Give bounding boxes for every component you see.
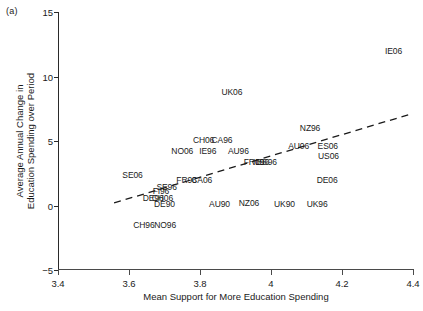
y-tick-label: −5 xyxy=(42,265,53,276)
data-point-label: AU96 xyxy=(228,146,249,156)
data-point-label: SE06 xyxy=(122,170,142,180)
x-tick-mark xyxy=(129,270,130,275)
x-tick-mark xyxy=(271,270,272,275)
y-axis-title: Average Annual Change in Education Spend… xyxy=(14,12,42,270)
data-point-label: DE06 xyxy=(317,175,338,185)
x-tick-mark xyxy=(413,270,414,275)
y-tick-label: 0 xyxy=(48,200,53,211)
y-tick-label: 15 xyxy=(42,7,53,18)
data-point-label: UK06 xyxy=(222,87,243,97)
data-point-label: CH96 xyxy=(133,220,154,230)
y-tick-mark xyxy=(54,12,58,13)
data-point-label: AU90 xyxy=(209,199,230,209)
x-tick-mark xyxy=(58,270,59,275)
data-point-label: IE06 xyxy=(385,46,402,56)
y-tick-mark xyxy=(54,77,58,78)
y-axis-title-line-1: Average Annual Change in xyxy=(14,12,25,270)
x-tick-label: 4.2 xyxy=(335,278,348,289)
data-point-label: CA96 xyxy=(212,135,233,145)
x-tick-label: 4 xyxy=(268,278,273,289)
data-point-label: ES06 xyxy=(318,141,338,151)
data-point-label: AU06 xyxy=(288,141,309,151)
y-tick-mark xyxy=(54,141,58,142)
data-point-label: UK90 xyxy=(274,199,295,209)
x-tick-mark xyxy=(342,270,343,275)
x-tick-label: 3.6 xyxy=(122,278,135,289)
data-point-label: US06 xyxy=(318,151,339,161)
data-point-label: NO06 xyxy=(171,146,193,156)
x-axis-title: Mean Support for More Education Spending xyxy=(58,291,414,302)
x-tick-label: 4.4 xyxy=(406,278,419,289)
y-tick-label: 10 xyxy=(42,71,53,82)
data-point-label: UK96 xyxy=(307,199,328,209)
data-point-label: CA06 xyxy=(191,175,212,185)
y-tick-label: 5 xyxy=(48,136,53,147)
trend-line xyxy=(58,12,413,270)
data-point-label: ES96 xyxy=(257,157,277,167)
scatter-plot-figure: (a) −5051015 IE06UK06NZ96CH06CA96AU06ES0… xyxy=(0,0,423,311)
y-axis-title-line-2: Education Spending over Period xyxy=(25,12,36,270)
data-point-label: DE90 xyxy=(154,199,175,209)
data-point-label: NO96 xyxy=(154,220,176,230)
y-tick-mark xyxy=(54,206,58,207)
data-point-label: NZ06 xyxy=(239,198,259,208)
plot-area: −5051015 IE06UK06NZ96CH06CA96AU06ES06NO0… xyxy=(58,12,413,270)
x-tick-label: 3.8 xyxy=(193,278,206,289)
data-point-label: IE96 xyxy=(199,146,216,156)
x-tick-label: 3.4 xyxy=(51,278,64,289)
data-point-label: NZ96 xyxy=(300,123,320,133)
x-tick-mark xyxy=(200,270,201,275)
